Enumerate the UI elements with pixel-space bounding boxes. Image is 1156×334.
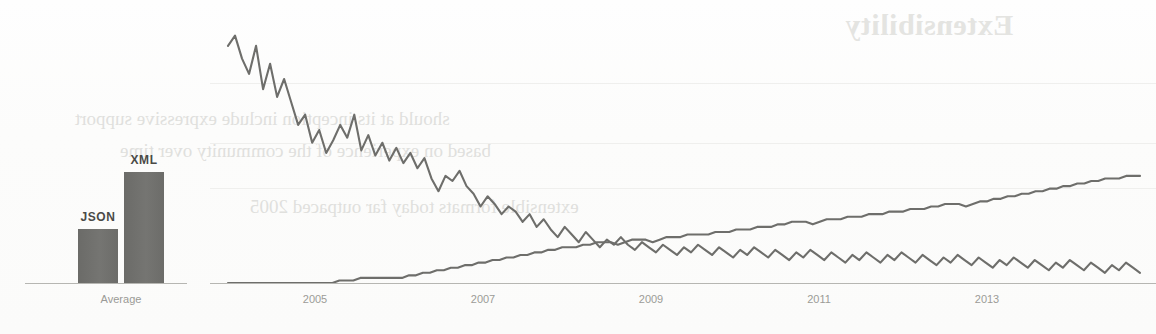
- trend-line-chart: 20052007200920112013: [210, 0, 1156, 334]
- x-tick-label-2009: 2009: [639, 293, 663, 305]
- bar-xml[interactable]: [124, 172, 164, 283]
- line-chart-axis: [210, 283, 1156, 284]
- x-tick-label-2007: 2007: [471, 293, 495, 305]
- bar-chart-axis: [25, 283, 187, 284]
- bar-label-json: JSON: [80, 210, 115, 224]
- x-tick-label-2013: 2013: [975, 293, 999, 305]
- bar-category-label-average: Average: [101, 293, 142, 305]
- average-bar-chart: JSON XML Average: [25, 0, 187, 334]
- bar-label-xml: XML: [130, 153, 157, 167]
- scanned-page: Extensibility should at its inception in…: [0, 0, 1156, 334]
- trend-line-json[interactable]: [228, 176, 1140, 283]
- x-tick-label-2011: 2011: [807, 293, 831, 305]
- x-tick-label-2005: 2005: [303, 293, 327, 305]
- trend-line-xml[interactable]: [228, 36, 1140, 273]
- bar-json[interactable]: [78, 229, 118, 283]
